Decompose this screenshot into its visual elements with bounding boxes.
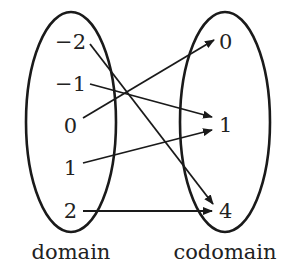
arrow-0-to-0 <box>83 40 214 118</box>
arrow-1-to-1 <box>83 130 212 163</box>
domain-caption: domain <box>32 240 111 264</box>
mapping-diagram: −2 −1 0 1 2 0 1 4 domain codomain <box>0 0 282 272</box>
domain-element: 0 <box>64 114 77 138</box>
codomain-element: 0 <box>219 30 232 54</box>
codomain-element: 4 <box>219 199 232 223</box>
mapping-arrows <box>83 40 214 211</box>
diagram-canvas: −2 −1 0 1 2 0 1 4 domain codomain <box>0 0 282 272</box>
codomain-element: 1 <box>219 113 232 137</box>
domain-element: −1 <box>55 72 86 96</box>
domain-element: 2 <box>64 199 77 223</box>
arrow-neg1-to-1 <box>90 84 212 117</box>
codomain-caption: codomain <box>173 240 276 264</box>
domain-element: 1 <box>64 156 77 180</box>
codomain-labels: 0 1 4 <box>219 30 232 223</box>
domain-labels: −2 −1 0 1 2 <box>55 30 86 223</box>
domain-element: −2 <box>55 30 86 54</box>
